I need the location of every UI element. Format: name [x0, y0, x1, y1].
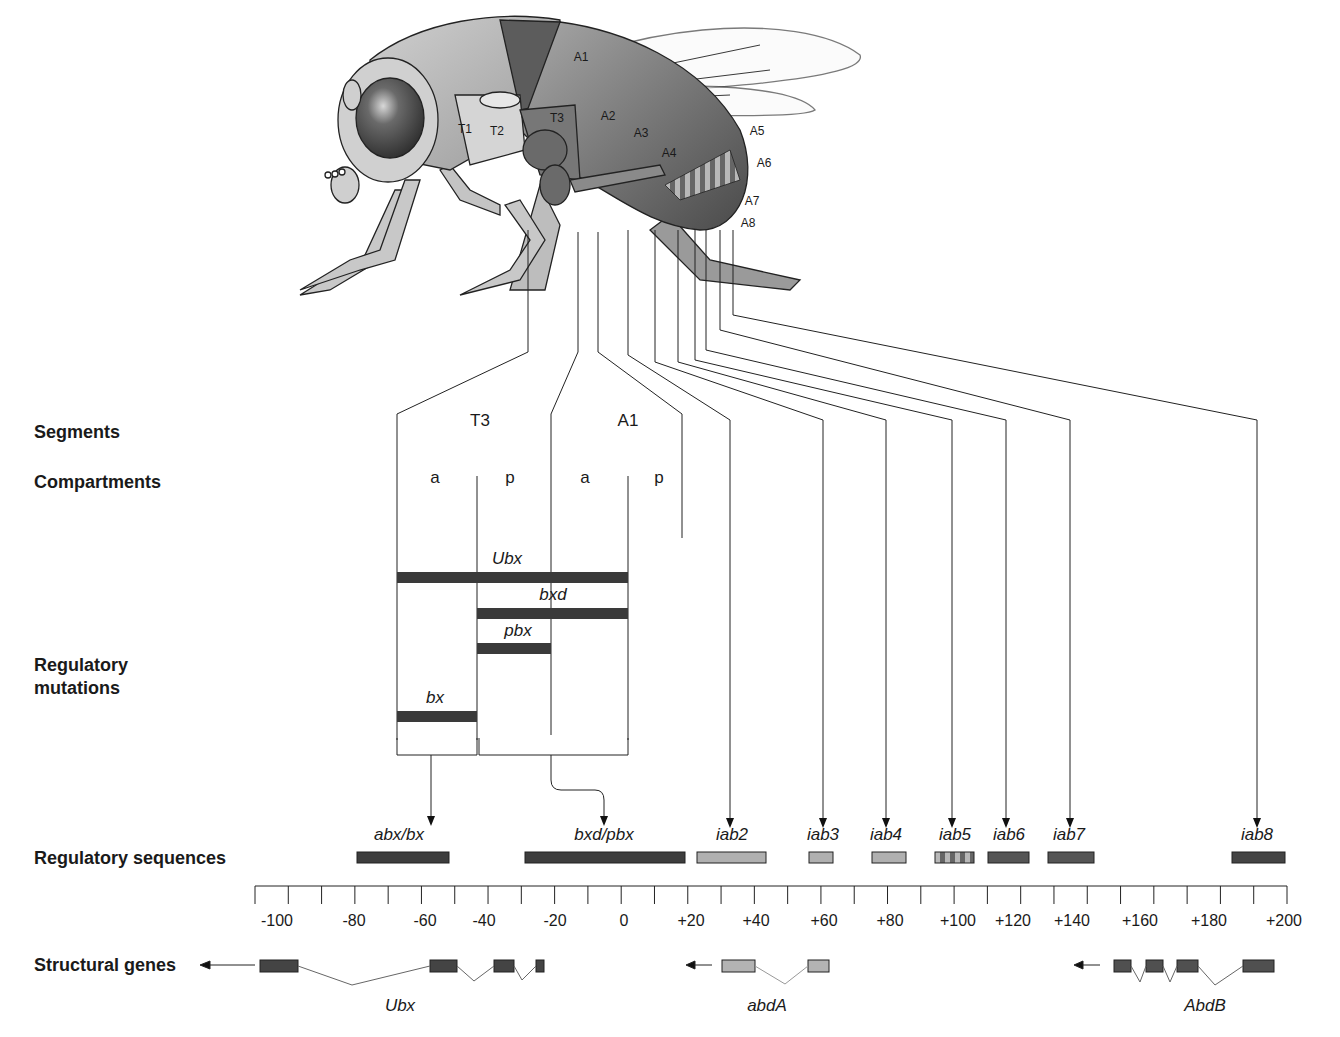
row-label-regulatory-mutations-2: mutations [34, 677, 120, 699]
axis-label: +60 [810, 912, 837, 930]
mutation-label-bxd: bxd [539, 585, 566, 605]
compartment-t3-p: p [505, 468, 514, 488]
axis-label: +100 [940, 912, 976, 930]
compartment-a1-p: p [654, 468, 663, 488]
axis-label: -80 [342, 912, 365, 930]
row-label-compartments: Compartments [34, 471, 161, 493]
mutation-label-ubx: Ubx [492, 549, 522, 569]
structural-gene-models [200, 960, 1274, 985]
axis-label: +80 [876, 912, 903, 930]
kb-axis [255, 886, 1287, 904]
segment-a1: A1 [618, 411, 639, 431]
gene-label-abda: abdA [747, 996, 787, 1016]
regseq-label-iab3: iab3 [807, 825, 839, 845]
axis-label: +200 [1266, 912, 1302, 930]
fly-label-a6: A6 [757, 156, 772, 170]
compartment-a1-a: a [580, 468, 589, 488]
regseq-label-abx-bx: abx/bx [374, 825, 424, 845]
regseq-label-iab7: iab7 [1053, 825, 1085, 845]
row-label-structural-genes: Structural genes [34, 954, 176, 976]
arrowheads [427, 816, 1261, 828]
axis-label: +20 [677, 912, 704, 930]
axis-label: +120 [995, 912, 1031, 930]
axis-label: -60 [413, 912, 436, 930]
gene-label-ubx: Ubx [385, 996, 415, 1016]
fly-label-a7: A7 [745, 194, 760, 208]
fly-label-a5: A5 [750, 124, 765, 138]
fly-label-t3: T3 [550, 111, 564, 125]
fly-label-a4: A4 [662, 146, 677, 160]
row-label-regulatory-mutations-1: Regulatory [34, 654, 128, 676]
regseq-label-iab2: iab2 [716, 825, 748, 845]
regseq-label-iab5: iab5 [939, 825, 971, 845]
compartment-t3-a: a [430, 468, 439, 488]
axis-label: +140 [1054, 912, 1090, 930]
mutation-label-bx: bx [426, 688, 444, 708]
axis-label: 0 [620, 912, 629, 930]
regseq-label-iab4: iab4 [870, 825, 902, 845]
row-label-regulatory-sequences: Regulatory sequences [34, 847, 226, 869]
fly-label-a2: A2 [601, 109, 616, 123]
mutation-label-pbx: pbx [504, 621, 531, 641]
regulatory-sequence-boxes [357, 852, 1285, 863]
regseq-label-iab6: iab6 [993, 825, 1025, 845]
axis-label: +160 [1122, 912, 1158, 930]
regseq-label-bxd-pbx: bxd/pbx [574, 825, 634, 845]
axis-label: -40 [472, 912, 495, 930]
fly-label-a1: A1 [574, 50, 589, 64]
connector-lines [397, 230, 1257, 820]
axis-label: -100 [261, 912, 293, 930]
fly-label-a8: A8 [741, 216, 756, 230]
fly-label-a3: A3 [634, 126, 649, 140]
row-label-segments: Segments [34, 421, 120, 443]
axis-label: +180 [1191, 912, 1227, 930]
regseq-label-iab8: iab8 [1241, 825, 1273, 845]
axis-label: -20 [543, 912, 566, 930]
fly-label-t1: T1 [458, 122, 472, 136]
fly-label-t2: T2 [490, 124, 504, 138]
axis-label: +40 [742, 912, 769, 930]
gene-label-abdb: AbdB [1184, 996, 1226, 1016]
segment-t3: T3 [470, 411, 490, 431]
